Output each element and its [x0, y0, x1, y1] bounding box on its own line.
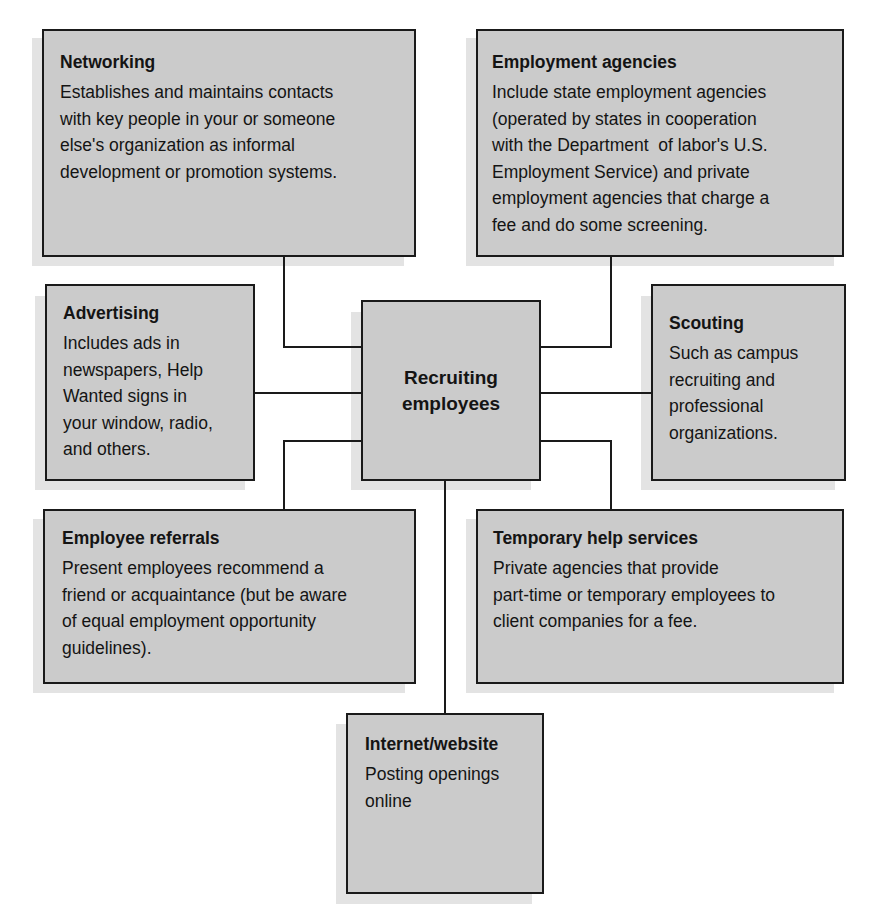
node-desc-line: Present employees recommend a: [62, 555, 400, 582]
node-desc-line: part-time or temporary employees to: [493, 582, 828, 609]
node-desc-line: newspapers, Help: [63, 357, 239, 384]
node-desc-line: guidelines).: [62, 635, 400, 662]
node-desc-line: Includes ads in: [63, 330, 239, 357]
node-desc-line: online: [365, 788, 530, 815]
node-desc-line: Posting openings: [365, 761, 530, 788]
node-desc-line: Include state employment agencies: [492, 79, 828, 106]
node-networking: Networking Establishes and maintains con…: [42, 29, 416, 257]
node-desc-line: your window, radio,: [63, 410, 239, 437]
node-desc-line: friend or acquaintance (but be aware: [62, 582, 400, 609]
center-title-line: employees: [363, 391, 539, 417]
node-desc-line: Private agencies that provide: [493, 555, 828, 582]
node-desc-line: of equal employment opportunity: [62, 608, 400, 635]
node-internet-website: Internet/website Posting openings online: [346, 713, 544, 894]
node-desc-line: and others.: [63, 436, 239, 463]
node-desc-line: recruiting and: [669, 367, 830, 394]
connector-employment-vertical: [610, 256, 612, 348]
connector-scouting: [539, 392, 652, 394]
connector-temporary-vertical: [610, 440, 612, 510]
node-title: Employment agencies: [492, 51, 828, 73]
node-scouting: Scouting Such as campus recruiting and p…: [651, 284, 846, 481]
node-title: Internet/website: [365, 733, 530, 755]
node-title: Scouting: [669, 312, 830, 334]
node-desc-line: Wanted signs in: [63, 383, 239, 410]
node-desc-line: professional: [669, 393, 830, 420]
connector-temporary-horizontal: [539, 440, 612, 442]
node-desc-line: organizations.: [669, 420, 830, 447]
node-desc-line: with the Department of labor's U.S.: [492, 132, 828, 159]
node-desc-line: else's organization as informal: [60, 132, 398, 159]
connector-networking-vertical: [283, 256, 285, 348]
node-recruiting-employees: Recruiting employees: [361, 300, 541, 481]
center-title-line: Recruiting: [363, 365, 539, 391]
node-employment-agencies: Employment agencies Include state employ…: [476, 29, 844, 257]
node-desc-line: client companies for a fee.: [493, 608, 828, 635]
connector-referrals-horizontal: [283, 440, 363, 442]
connector-internet-vertical: [444, 479, 446, 714]
node-desc-line: (operated by states in cooperation: [492, 106, 828, 133]
node-title: Temporary help services: [493, 527, 828, 549]
node-title: Employee referrals: [62, 527, 400, 549]
node-desc-line: employment agencies that charge a: [492, 185, 828, 212]
connector-advertising: [254, 392, 362, 394]
connector-networking-horizontal: [283, 346, 363, 348]
node-employee-referrals: Employee referrals Present employees rec…: [43, 509, 416, 684]
node-desc-line: Such as campus: [669, 340, 830, 367]
center-title: Recruiting employees: [363, 365, 539, 417]
node-desc-line: development or promotion systems.: [60, 159, 398, 186]
node-desc-line: fee and do some screening.: [492, 212, 828, 239]
connector-employment-horizontal: [539, 346, 612, 348]
node-temporary-help-services: Temporary help services Private agencies…: [476, 509, 844, 684]
node-title: Networking: [60, 51, 398, 73]
node-desc-line: Establishes and maintains contacts: [60, 79, 398, 106]
node-desc-line: with key people in your or someone: [60, 106, 398, 133]
node-advertising: Advertising Includes ads in newspapers, …: [45, 284, 255, 481]
node-title: Advertising: [63, 302, 239, 324]
connector-referrals-vertical: [283, 440, 285, 510]
node-desc-line: Employment Service) and private: [492, 159, 828, 186]
